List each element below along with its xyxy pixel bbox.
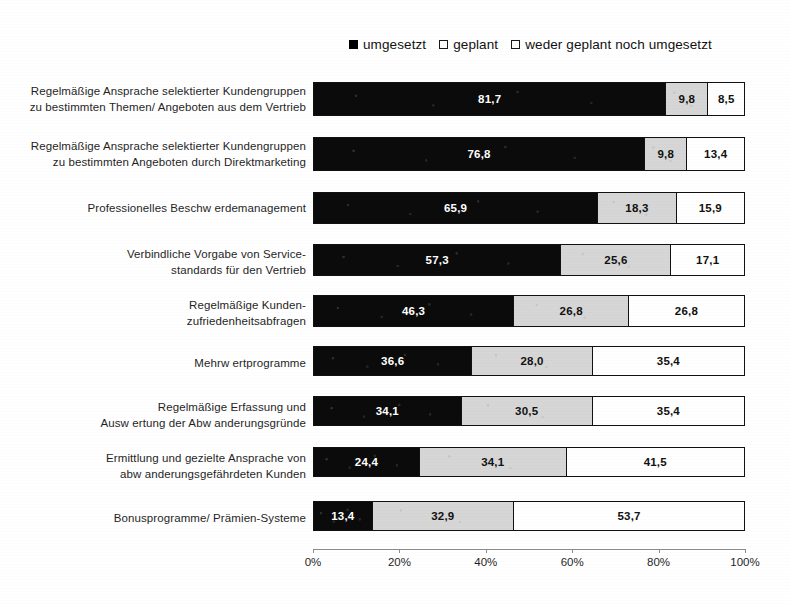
- category-label: Regelmäßige Kunden-zufriedenheitsabfrage…: [20, 298, 306, 329]
- bar-value-label: 28,0: [520, 355, 543, 367]
- bar-segment-umgesetzt[interactable]: 57,3: [314, 245, 560, 275]
- legend-item-weder-geplant-noch-umgesetzt[interactable]: weder geplant noch umgesetzt: [511, 37, 712, 52]
- bar-value-label: 26,8: [560, 305, 583, 317]
- category-label-line: Regelmäßige Kunden-: [20, 298, 306, 314]
- category-label: Verbindliche Vorgabe von Service-standar…: [20, 247, 306, 278]
- bar-value-label: 13,4: [331, 510, 354, 522]
- bar-row[interactable]: 76,89,813,4: [313, 137, 745, 171]
- hollow-square-icon: [511, 40, 520, 49]
- filled-square-icon: [349, 40, 358, 49]
- bar-segment-umgesetzt[interactable]: 36,6: [314, 347, 471, 375]
- category-label: Regelmäßige Ansprache selektierter Kunde…: [20, 139, 306, 170]
- category-label-line: zufriedenheitsabfragen: [20, 314, 306, 330]
- bar-row[interactable]: 13,432,953,7: [313, 501, 745, 531]
- legend-label: umgesetzt: [363, 37, 426, 52]
- category-label-line: Ermittlung und gezielte Ansprache von: [20, 451, 306, 467]
- category-label: Professionelles Beschw erdemanagement: [20, 201, 306, 217]
- bar-row[interactable]: 24,434,141,5: [313, 447, 745, 477]
- x-axis-tick-label: 80%: [647, 556, 670, 568]
- bar-row[interactable]: 81,79,88,5: [313, 82, 745, 116]
- bar-segment-umgesetzt[interactable]: 81,7: [314, 83, 665, 115]
- bar-segment-weder[interactable]: 8,5: [707, 83, 744, 115]
- bar-segment-geplant[interactable]: 30,5: [461, 397, 592, 425]
- bar-segment-geplant[interactable]: 25,6: [560, 245, 670, 275]
- category-label-line: zu bestimmten Angeboten durch Direktmark…: [20, 155, 306, 171]
- category-label-line: Regelmäßige Erfassung und: [20, 400, 306, 416]
- bar-segment-geplant[interactable]: 32,9: [372, 502, 513, 530]
- bar-segment-geplant[interactable]: 9,8: [644, 138, 686, 170]
- category-label: Bonusprogramme/ Prämien-Systeme: [20, 511, 306, 527]
- bar-value-label: 8,5: [718, 93, 735, 105]
- x-axis-tick-labels: 0%20%40%60%80%100%: [313, 556, 745, 572]
- bar-value-label: 24,4: [355, 456, 378, 468]
- bar-value-label: 46,3: [402, 305, 425, 317]
- category-label-line: zu bestimmten Themen/ Angeboten aus dem …: [20, 100, 306, 116]
- x-axis-tick: [313, 549, 314, 553]
- bar-value-label: 34,1: [376, 405, 399, 417]
- bar-value-label: 35,4: [657, 355, 680, 367]
- bar-segment-weder[interactable]: 35,4: [592, 397, 744, 425]
- category-label-line: standards für den Vertrieb: [20, 263, 306, 279]
- bar-segment-weder[interactable]: 35,4: [592, 347, 744, 375]
- bar-segment-weder[interactable]: 53,7: [513, 502, 744, 530]
- bar-segment-geplant[interactable]: 28,0: [471, 347, 591, 375]
- bar-value-label: 34,1: [481, 456, 504, 468]
- bar-row[interactable]: 34,130,535,4: [313, 396, 745, 426]
- x-axis-tick: [572, 549, 573, 553]
- category-label-line: abw anderungsgefährdeten Kunden: [20, 467, 306, 483]
- bar-segment-weder[interactable]: 15,9: [676, 193, 744, 223]
- bar-value-label: 26,8: [675, 305, 698, 317]
- bar-segment-weder[interactable]: 17,1: [670, 245, 744, 275]
- bar-segment-umgesetzt[interactable]: 46,3: [314, 296, 513, 326]
- bar-value-label: 76,8: [468, 148, 491, 160]
- category-label: Mehrw ertprogramme: [20, 356, 306, 372]
- bar-value-label: 30,5: [515, 405, 538, 417]
- category-label-line: Regelmäßige Ansprache selektierter Kunde…: [20, 84, 306, 100]
- stacked-bar-chart: umgesetzt geplant weder geplant noch umg…: [0, 0, 790, 604]
- category-label: Regelmäßige Erfassung undAusw ertung der…: [20, 400, 306, 431]
- x-axis-tick: [486, 549, 487, 553]
- bar-segment-geplant[interactable]: 34,1: [419, 448, 566, 476]
- x-axis-tick: [659, 549, 660, 553]
- legend-item-geplant[interactable]: geplant: [439, 37, 498, 52]
- bar-segment-umgesetzt[interactable]: 65,9: [314, 193, 597, 223]
- x-axis-tick-label: 60%: [561, 556, 584, 568]
- chart-legend: umgesetzt geplant weder geplant noch umg…: [349, 33, 712, 55]
- bar-segment-weder[interactable]: 13,4: [686, 138, 744, 170]
- bar-row[interactable]: 65,918,315,9: [313, 192, 745, 224]
- bar-value-label: 9,8: [658, 148, 675, 160]
- category-label-line: Bonusprogramme/ Prämien-Systeme: [20, 511, 306, 527]
- bar-segment-geplant[interactable]: 26,8: [513, 296, 628, 326]
- legend-item-umgesetzt[interactable]: umgesetzt: [349, 37, 426, 52]
- bar-segment-umgesetzt[interactable]: 34,1: [314, 397, 461, 425]
- category-label-line: Mehrw ertprogramme: [20, 356, 306, 372]
- category-axis-labels: Regelmäßige Ansprache selektierter Kunde…: [18, 74, 306, 546]
- bar-value-label: 57,3: [426, 254, 449, 266]
- bar-segment-weder[interactable]: 41,5: [566, 448, 744, 476]
- bar-value-label: 35,4: [657, 405, 680, 417]
- category-label-line: Ausw ertung der Abw anderungsgründe: [20, 416, 306, 432]
- bar-value-label: 81,7: [478, 93, 501, 105]
- bar-segment-weder[interactable]: 26,8: [628, 296, 743, 326]
- plot-area: 81,79,88,576,89,813,465,918,315,957,325,…: [313, 74, 745, 546]
- bar-segment-umgesetzt[interactable]: 24,4: [314, 448, 419, 476]
- x-axis-tick-label: 40%: [474, 556, 497, 568]
- x-axis-tick-label: 0%: [305, 556, 322, 568]
- x-axis-tick-label: 20%: [388, 556, 411, 568]
- category-label: Ermittlung und gezielte Ansprache vonabw…: [20, 451, 306, 482]
- x-axis-tick-label: 100%: [730, 556, 759, 568]
- bar-row[interactable]: 57,325,617,1: [313, 244, 745, 276]
- bar-segment-geplant[interactable]: 9,8: [665, 83, 707, 115]
- bar-value-label: 41,5: [644, 456, 667, 468]
- x-axis-line: [313, 549, 745, 550]
- bar-value-label: 65,9: [444, 202, 467, 214]
- category-label-line: Verbindliche Vorgabe von Service-: [20, 247, 306, 263]
- bar-segment-geplant[interactable]: 18,3: [597, 193, 676, 223]
- bar-row[interactable]: 46,326,826,8: [313, 295, 745, 327]
- bar-segment-umgesetzt[interactable]: 13,4: [314, 502, 372, 530]
- hollow-square-icon: [439, 40, 448, 49]
- bar-segment-umgesetzt[interactable]: 76,8: [314, 138, 644, 170]
- bar-row[interactable]: 36,628,035,4: [313, 346, 745, 376]
- bar-value-label: 17,1: [696, 254, 719, 266]
- category-label-line: Regelmäßige Ansprache selektierter Kunde…: [20, 139, 306, 155]
